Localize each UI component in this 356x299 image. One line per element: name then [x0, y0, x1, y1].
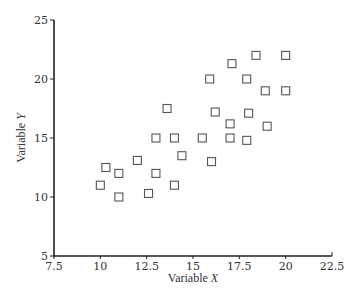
data-point-square	[152, 134, 160, 142]
data-point-square	[226, 134, 234, 142]
data-point-square	[208, 158, 216, 166]
data-point-square	[145, 189, 153, 197]
x-axis-label-var: X	[210, 271, 219, 285]
y-axis-ticks: 510152025	[34, 14, 54, 263]
data-point-square	[228, 60, 236, 68]
x-axis-label: Variable X	[168, 271, 219, 285]
data-point-square	[96, 181, 104, 189]
y-tick-label: 20	[34, 73, 48, 86]
y-axis-label: Variable Y	[14, 112, 28, 163]
data-point-square	[252, 51, 260, 59]
x-tick-label: 7.5	[45, 260, 63, 273]
data-point-square	[152, 169, 160, 177]
data-point-square	[170, 181, 178, 189]
x-axis-label-prefix: Variable	[168, 271, 211, 285]
x-tick-label: 17.5	[227, 260, 252, 273]
data-point-square	[178, 152, 186, 160]
x-tick-label: 10	[93, 260, 107, 273]
data-point-square	[243, 75, 251, 83]
data-point-square	[115, 193, 123, 201]
x-axis-ticks: 7.51012.51517.52022.5	[45, 252, 344, 273]
x-tick-label: 20	[279, 260, 293, 273]
data-point-square	[263, 122, 271, 130]
data-point-square	[211, 108, 219, 116]
y-axis-label-prefix: Variable	[14, 120, 28, 163]
x-tick-label: 22.5	[320, 260, 345, 273]
y-tick-label: 10	[34, 191, 48, 204]
data-point-square	[245, 109, 253, 117]
data-point-square	[170, 134, 178, 142]
data-point-square	[115, 169, 123, 177]
y-tick-label: 25	[34, 14, 48, 27]
data-point-square	[206, 75, 214, 83]
data-point-square	[102, 164, 110, 172]
data-point-square	[282, 51, 290, 59]
data-point-square	[163, 105, 171, 113]
data-point-square	[282, 87, 290, 95]
data-point-square	[261, 87, 269, 95]
y-axis-label-var: Y	[14, 112, 28, 120]
y-tick-label: 15	[34, 132, 48, 145]
scatter-chart: 510152025 7.51012.51517.52022.5 Variable…	[0, 0, 356, 299]
data-point-square	[133, 156, 141, 164]
data-points	[96, 51, 289, 201]
data-point-square	[243, 136, 251, 144]
data-point-square	[226, 120, 234, 128]
data-point-square	[198, 134, 206, 142]
x-tick-label: 12.5	[134, 260, 159, 273]
